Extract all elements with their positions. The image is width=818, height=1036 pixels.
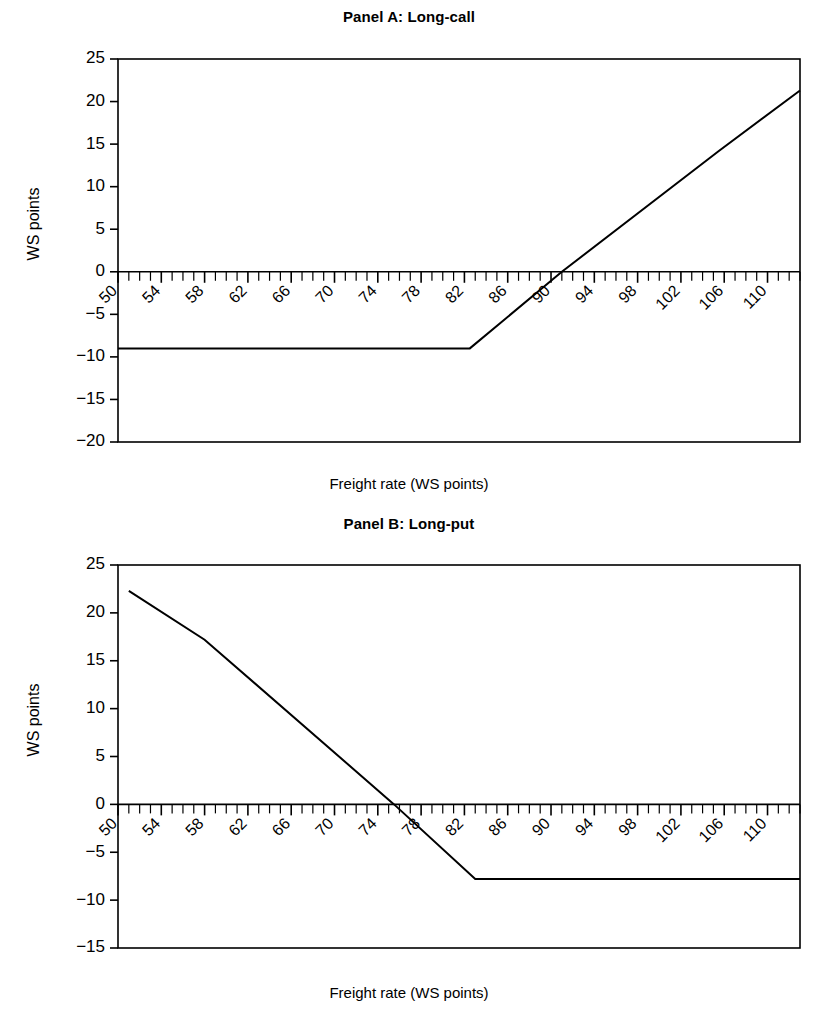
panel-b-x-tick-label: 82 [442, 814, 467, 839]
panel-a-long-call: Panel A: Long-call WS points 2520151050−… [0, 0, 818, 506]
panel-b-x-tick-label: 54 [139, 814, 164, 839]
panel-a-y-tick-label: −5 [86, 304, 105, 323]
panel-a-x-tick-label: 66 [269, 282, 294, 307]
panel-a-x-tick-label: 98 [615, 282, 640, 307]
panel-b-y-tick-label: −15 [76, 937, 105, 956]
panel-b-x-tick-label: 66 [269, 814, 294, 839]
panel-a-x-tick-label: 62 [225, 282, 250, 307]
panel-b-x-axis-title: Freight rate (WS points) [0, 984, 818, 1001]
panel-a-x-tick-label: 110 [740, 282, 770, 312]
panel-a-x-tick-label: 50 [96, 282, 121, 307]
panel-a-x-tick-label: 82 [442, 282, 467, 307]
panel-a-payoff-line [118, 90, 800, 348]
panel-b-x-tick-label: 74 [355, 814, 380, 839]
panel-a-y-tick-label: 10 [86, 176, 105, 195]
panel-a-y-tick-label: −20 [76, 431, 105, 450]
panel-b-x-tick-label: 58 [182, 814, 207, 839]
figure-page: Panel A: Long-call WS points 2520151050−… [0, 0, 818, 1036]
panel-b-y-tick-label: −10 [76, 890, 105, 909]
panel-a-x-tick-label: 58 [182, 282, 207, 307]
panel-a-x-tick-label: 74 [355, 282, 380, 307]
panel-b-x-tick-label: 90 [529, 814, 554, 839]
panel-a-x-axis-title: Freight rate (WS points) [0, 475, 818, 492]
panel-a-y-tick-label: 15 [86, 134, 105, 153]
panel-a-y-tick-label: 5 [96, 219, 105, 238]
panel-b-y-tick-label: −5 [86, 842, 105, 861]
panel-a-x-tick-label: 94 [572, 282, 597, 307]
panel-a-plot-frame [118, 59, 800, 442]
panel-a-x-tick-label: 78 [399, 282, 424, 307]
panel-b-x-tick-label: 50 [96, 814, 121, 839]
panel-b-y-tick-label: 0 [96, 794, 105, 813]
panel-b-x-tick-label: 70 [312, 814, 337, 839]
panel-b-plot-frame [118, 565, 800, 948]
panel-b-x-tick-label: 110 [740, 814, 770, 844]
panel-a-x-tick-label: 102 [652, 282, 683, 313]
panel-a-x-tick-label: 70 [312, 282, 337, 307]
panel-b-x-tick-label: 86 [485, 814, 510, 839]
panel-b-y-tick-label: 5 [96, 746, 105, 765]
panel-a-x-tick-label: 106 [695, 282, 726, 313]
panel-b-plot: 2520151050−5−10−155054586266707478828690… [0, 542, 818, 972]
panel-a-x-tick-label: 90 [529, 282, 554, 307]
panel-a-y-tick-label: −10 [76, 346, 105, 365]
panel-b-y-tick-label: 20 [86, 602, 105, 621]
panel-b-long-put: Panel B: Long-put WS points 2520151050−5… [0, 506, 818, 1036]
panel-b-x-tick-label: 102 [652, 814, 683, 845]
panel-a-y-tick-label: 20 [86, 91, 105, 110]
panel-a-x-tick-label: 54 [139, 282, 164, 307]
panel-b-x-tick-label: 98 [615, 814, 640, 839]
panel-b-x-tick-label: 62 [225, 814, 250, 839]
panel-a-y-tick-label: 25 [86, 48, 105, 67]
panel-b-x-tick-label: 94 [572, 814, 597, 839]
panel-a-plot: 2520151050−5−10−15−205054586266707478828… [0, 36, 818, 466]
panel-a-y-tick-label: 0 [96, 261, 105, 280]
panel-a-y-tick-label: −15 [76, 389, 105, 408]
panel-a-title: Panel A: Long-call [0, 8, 818, 25]
panel-a-x-tick-label: 86 [485, 282, 510, 307]
panel-b-title: Panel B: Long-put [0, 515, 818, 532]
panel-b-y-tick-label: 25 [86, 554, 105, 573]
panel-b-y-tick-label: 10 [86, 698, 105, 717]
panel-b-y-tick-label: 15 [86, 650, 105, 669]
panel-b-x-tick-label: 106 [695, 814, 726, 845]
